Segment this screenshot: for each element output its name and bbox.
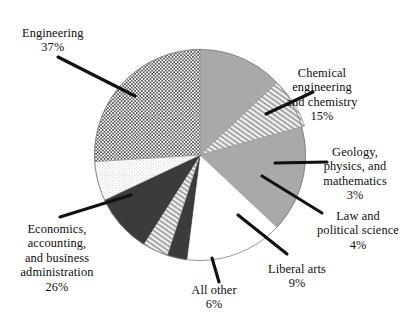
- label-chemical-percent: 15%: [286, 109, 357, 123]
- label-law-line1: Law and: [336, 209, 380, 223]
- label-law-line2: political science: [317, 223, 399, 237]
- label-all-other: All other 6%: [191, 283, 236, 312]
- label-chemical-engineering: Chemical engineering and chemistry 15%: [286, 66, 357, 124]
- label-law: Law and political science 4%: [317, 209, 399, 252]
- label-economics-percent: 26%: [21, 280, 94, 294]
- label-economics-line3: and business: [25, 251, 89, 265]
- label-liberal-percent: 9%: [268, 276, 326, 290]
- label-geology-percent: 3%: [323, 188, 387, 202]
- label-chemical-line3: and chemistry: [286, 95, 357, 109]
- pie-slice-economics[interactable]: [95, 50, 200, 162]
- label-law-percent: 4%: [317, 238, 399, 252]
- label-economics-line2: accounting,: [28, 236, 87, 250]
- label-engineering-line1: Engineering: [22, 26, 84, 40]
- label-liberal-arts: Liberal arts 9%: [268, 262, 326, 291]
- label-engineering-percent: 37%: [22, 40, 84, 54]
- pie-chart: Engineering 37% Chemical engineering and…: [0, 0, 418, 329]
- leader-line-all-other: [212, 258, 219, 282]
- label-chemical-line2: engineering: [292, 80, 352, 94]
- label-geology-line2: physics, and: [324, 159, 386, 173]
- leader-line-geology: [275, 162, 327, 163]
- label-economics: Economics, accounting, and business admi…: [21, 222, 94, 294]
- label-all-other-line1: All other: [191, 283, 236, 297]
- label-engineering: Engineering 37%: [22, 26, 84, 55]
- label-all-other-percent: 6%: [191, 297, 236, 311]
- label-geology: Geology, physics, and mathematics 3%: [323, 145, 387, 203]
- label-geology-line1: Geology,: [332, 145, 378, 159]
- label-economics-line4: administration: [21, 265, 94, 279]
- label-geology-line3: mathematics: [323, 174, 387, 188]
- label-chemical-line1: Chemical: [298, 66, 346, 80]
- leader-line-engineering: [58, 57, 135, 96]
- label-liberal-line1: Liberal arts: [268, 262, 326, 276]
- label-economics-line1: Economics,: [27, 222, 86, 236]
